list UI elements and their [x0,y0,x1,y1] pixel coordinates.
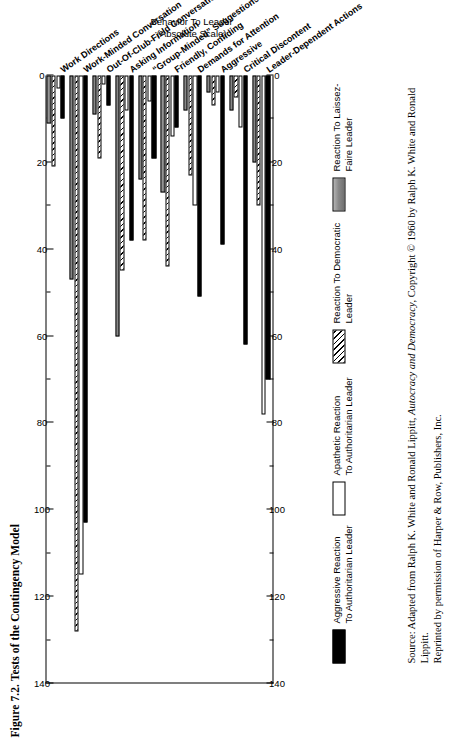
figure-title: Figure 7.2. Tests of the Contingency Mod… [8,523,20,737]
axis-tick-label-bottom-40: 40 [271,243,282,254]
category-axis-line [45,682,273,683]
axis-tick-label-bottom-100: 100 [269,504,285,515]
bar [188,75,192,175]
bar [220,75,224,244]
figure-container: Figure 7.2. Tests of the Contingency Mod… [0,0,473,755]
legend-row: Aggressive ReactionTo Authoritarian Lead… [330,73,364,663]
axis-tick-label-top-20: 20 [36,156,47,167]
bar [211,75,215,105]
bar [83,75,87,522]
bar [101,75,105,84]
axis-tick-label-top-120: 120 [34,591,50,602]
axis-tick-label-bottom-20: 20 [271,156,282,167]
bar [265,75,269,379]
bar [238,75,242,127]
axis-tick-top-130 [46,639,50,640]
bar [119,75,123,270]
axis-tick-bottom-130 [269,639,273,640]
axis-tick-label-top-0: 0 [39,70,44,81]
axis-tick-label-top-40: 40 [36,243,47,254]
axis-tick-top-110 [46,552,50,553]
legend-label: Reaction To DemocraticLeader [330,222,353,323]
legend-label-line1: Aggressive Reaction [330,525,342,623]
bar [78,75,82,574]
source-title-italic: Autocracy and Democracy [405,302,416,415]
legend-item: Reaction To Laissez-Faire Leader [330,83,353,211]
legend-item: Reaction To DemocraticLeader [330,222,353,363]
bar [74,75,78,631]
legend-label-line2: To Authoritarian Leader [342,525,354,623]
axis-tick-label-bottom-60: 60 [271,330,282,341]
legend-swatch-gray [332,177,345,211]
source-note-line1: Source: Adapted from Ralph K. White and … [404,63,430,663]
bar [192,75,196,205]
axis-tick-label-bottom-140: 140 [269,678,285,689]
legend-item: Apathetic ReactionTo Authoritarian Leade… [330,377,353,515]
axis-tick-label-top-60: 60 [36,330,47,341]
source-note-line2: Reprinted by permission of Harper & Row,… [430,63,443,663]
bar [183,75,187,110]
bar [56,75,60,88]
axis-tick-bottom-110 [269,552,273,553]
bar [252,75,256,162]
chart-legend: Aggressive ReactionTo Authoritarian Lead… [330,73,364,663]
bar [106,75,110,105]
bar [229,75,233,110]
bar [261,75,265,414]
bar [147,75,151,101]
axis-tick-top-30 [46,204,50,205]
axis-tick-top-90 [46,465,50,466]
legend-label-line1: Reaction To Laissez- [330,83,342,171]
bar [243,75,247,344]
legend-label-line1: Apathetic Reaction [330,377,342,475]
axis-tick-label-bottom-120: 120 [269,591,285,602]
bar [124,75,128,110]
legend-item: Aggressive ReactionTo Authoritarian Lead… [330,525,353,663]
legend-swatch-black [332,629,345,663]
source-note: Source: Adapted from Ralph K. White and … [404,63,443,663]
legend-swatch-hatch [332,329,345,363]
axis-tick-bottom-90 [269,465,273,466]
source-label: Source: [405,631,416,663]
bar [115,75,119,336]
bar [138,75,142,179]
category-label: Leader-Dependent Actions [264,0,363,74]
bar [170,75,174,136]
legend-label-line1: Reaction To Democratic [330,222,342,323]
axis-tick-label-bottom-0: 0 [274,70,279,81]
legend-label-line2: Faire Leader [342,83,354,171]
legend-label-line2: To Authoritarian Leader [342,377,354,475]
bar [215,75,219,92]
axis-tick-top-70 [46,378,50,379]
value-axis-title: Behavior To Leader (Absolute Scale) [150,15,232,39]
legend-label: Apathetic ReactionTo Authoritarian Leade… [330,377,353,475]
legend-label: Reaction To Laissez-Faire Leader [330,83,353,171]
value-axis-title-line2: (Absolute Scale) [150,27,232,39]
bar [60,75,64,118]
legend-swatch-white [332,481,345,515]
bar [142,75,146,240]
axis-tick-top-50 [46,291,50,292]
axis-tick-label-top-100: 100 [34,504,50,515]
axis-tick-label-top-140: 140 [34,678,50,689]
value-axis-title-line1: Behavior To Leader [150,15,232,27]
source-text-part1: Adapted from Ralph K. White and Ronald L… [405,414,416,630]
legend-label-line2: Leader [342,222,354,323]
bar [46,75,50,123]
bar [206,75,210,92]
bar [51,75,55,166]
bar [97,75,101,158]
bar [174,75,178,127]
bar [151,75,155,158]
chart-plot-area: Work DirectionsWork-Minded ConversationO… [45,75,273,683]
axis-tick-label-top-80: 80 [36,417,47,428]
bar [233,75,237,97]
bar [165,75,169,266]
axis-tick-label-bottom-80: 80 [271,417,282,428]
bar [256,75,260,205]
bar [197,75,201,296]
bar [69,75,73,279]
bar [160,75,164,192]
bar [129,75,133,240]
legend-label: Aggressive ReactionTo Authoritarian Lead… [330,525,353,623]
